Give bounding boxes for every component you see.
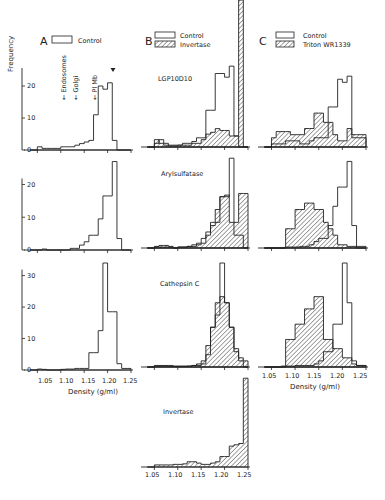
- hatched-series: [147, 297, 248, 367]
- row-title-lgp10d10: LGP10D10: [158, 75, 192, 83]
- histogram-a-cathepsin-c: 0102030: [22, 263, 133, 374]
- control-series: [30, 162, 131, 250]
- hatched-series: [147, 378, 248, 467]
- legend-swatch-hatched: [155, 41, 175, 47]
- legend-swatch-open: [276, 32, 294, 38]
- y-tick-label: 20: [27, 303, 35, 311]
- legend-a: Control: [52, 36, 102, 45]
- x-axis-label-a: Density (g/ml): [68, 388, 118, 396]
- panel-label-b: B: [145, 35, 153, 48]
- svg-text:1.20: 1.20: [214, 471, 228, 479]
- panel-label-a: A: [40, 35, 48, 48]
- legend-label: Control: [180, 32, 204, 40]
- legend-b: Control Invertase: [155, 32, 210, 49]
- svg-text:1.20: 1.20: [102, 377, 116, 385]
- svg-text:1.05: 1.05: [262, 372, 276, 380]
- histograms: 01020010200102030: [22, 0, 368, 470]
- legend-swatch-open: [52, 36, 72, 43]
- x-axis-label-c: Density (g/ml): [290, 383, 340, 391]
- svg-text:1.25: 1.25: [123, 377, 137, 385]
- histogram-a-arylsulfatase: 01020: [22, 162, 133, 255]
- legend-c: Control Triton WR1339: [276, 32, 351, 49]
- svg-text:1.20: 1.20: [330, 372, 344, 380]
- y-tick-label: 10: [27, 335, 35, 343]
- histogram-c-cathepsin-c: [258, 263, 368, 370]
- svg-text:1.15: 1.15: [81, 377, 95, 385]
- svg-text:1.10: 1.10: [59, 377, 73, 385]
- hatched-series: [264, 113, 366, 147]
- x-tick-labels-b: 1.05 1.10 1.15 1.20 1.25: [145, 471, 251, 479]
- histogram-c-arylsulfatase: [258, 161, 368, 251]
- y-tick-label: 0: [27, 246, 31, 254]
- control-series: [30, 263, 131, 370]
- svg-text:1.10: 1.10: [168, 471, 182, 479]
- organelle-markers: ← Endosomes ← Golgi ← Pl Mb: [60, 54, 116, 100]
- hatched-series: [264, 297, 366, 367]
- figure: A B C Control Control Invertase Control …: [0, 0, 385, 500]
- y-tick-label: 30: [27, 272, 35, 280]
- panel-label-c: C: [259, 35, 267, 48]
- hatched-series: [147, 193, 248, 248]
- svg-text:1.10: 1.10: [285, 372, 299, 380]
- y-tick-label: 10: [27, 114, 35, 122]
- marker-endosomes: ← Endosomes: [60, 54, 68, 100]
- legend-swatch-open: [155, 32, 175, 38]
- row-title-arylsulfatase: Arylsulfatase: [161, 170, 203, 178]
- legend-label: Control: [78, 37, 102, 45]
- svg-text:1.15: 1.15: [191, 471, 205, 479]
- x-tick-labels-c: 1.05 1.10 1.15 1.20 1.25: [262, 372, 367, 380]
- marker-golgi: ← Golgi: [72, 76, 80, 100]
- x-tick-labels-a: 1.05 1.10 1.15 1.20 1.25: [38, 377, 137, 385]
- y-tick-label: 20: [27, 181, 35, 189]
- svg-text:1.05: 1.05: [38, 377, 52, 385]
- y-tick-label: 10: [27, 214, 35, 222]
- y-tick-label: 20: [27, 82, 35, 90]
- histogram-b-invertase: [141, 378, 250, 470]
- y-tick-label: 0: [27, 146, 31, 154]
- arrow-down-icon: [111, 68, 116, 72]
- legend-label: Invertase: [180, 41, 210, 49]
- control-series: [30, 83, 131, 150]
- legend-label: Triton WR1339: [302, 41, 351, 49]
- legend-swatch-hatched: [276, 41, 294, 47]
- row-title-cathepsin-c: Cathepsin C: [160, 280, 200, 288]
- histogram-c-lgp10d10: [258, 76, 368, 150]
- svg-text:1.25: 1.25: [353, 372, 367, 380]
- row-title-invertase: Invertase: [163, 408, 193, 416]
- svg-text:1.25: 1.25: [237, 471, 251, 479]
- svg-text:1.15: 1.15: [307, 372, 321, 380]
- y-tick-label: 0: [27, 366, 31, 374]
- svg-text:1.05: 1.05: [145, 471, 159, 479]
- y-axis-label: Frequency: [7, 36, 15, 72]
- hatched-series: [147, 0, 248, 147]
- legend-label: Control: [303, 32, 327, 40]
